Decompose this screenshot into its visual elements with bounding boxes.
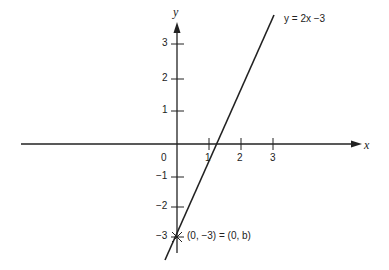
y-tick-label-2: 2 xyxy=(162,73,168,83)
y-tick-label-neg1: −1 xyxy=(156,171,167,181)
x-tick-label-2: 2 xyxy=(237,153,243,163)
y-tick-label-3: 3 xyxy=(162,38,168,48)
y-tick-label-neg3: −3 xyxy=(156,231,167,241)
line-y-equals-2x-minus-3 xyxy=(165,15,274,260)
y-tick-label-1: 1 xyxy=(162,105,168,115)
x-tick-label-1: 1 xyxy=(205,153,211,163)
origin-label: 0 xyxy=(161,153,167,163)
x-tick-label-3: 3 xyxy=(270,153,276,163)
y-axis-arrow-icon xyxy=(174,22,181,33)
y-tick-label-neg2: −2 xyxy=(156,201,167,211)
x-axis-label: x xyxy=(364,139,369,151)
y-axis-label: y xyxy=(173,6,178,18)
x-axis-arrow-icon xyxy=(351,141,362,148)
line-equation-label: y = 2x −3 xyxy=(284,14,325,24)
intercept-label: (0, −3) = (0, b) xyxy=(187,231,251,241)
